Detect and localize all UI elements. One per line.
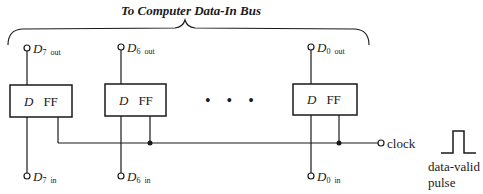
label-d0-in: D0in — [317, 170, 341, 185]
label-d6-in: D6in — [127, 170, 151, 185]
label-d7-out: D7out — [33, 42, 61, 57]
label-d0-out: D0out — [317, 41, 345, 56]
terminal-d7-out — [24, 45, 30, 51]
terminal-clock — [378, 140, 384, 146]
label-d6-out: D6out — [127, 41, 155, 56]
terminal-d6-out — [118, 44, 124, 50]
ellipsis: • • • — [205, 93, 260, 109]
junction-dot — [337, 141, 342, 146]
pulse-label-line2: pulse — [428, 176, 455, 189]
flipflop-label-7: DFF — [24, 95, 58, 108]
clock-label: clock — [387, 137, 415, 150]
pulse-label-line1: data-valid — [428, 160, 480, 173]
label-d7-in: D7in — [33, 170, 57, 185]
terminal-d0-in — [308, 173, 314, 179]
bus-brace — [8, 20, 369, 45]
junction-dot — [148, 141, 153, 146]
flipflop-label-6: DFF — [119, 94, 153, 107]
terminal-d6-in — [118, 173, 124, 179]
bus-title: To Computer Data-In Bus — [121, 4, 261, 17]
terminal-d7-in — [24, 173, 30, 179]
terminal-d0-out — [308, 44, 314, 50]
pulse-waveform — [441, 131, 476, 153]
flipflop-label-0: DFF — [307, 93, 341, 106]
